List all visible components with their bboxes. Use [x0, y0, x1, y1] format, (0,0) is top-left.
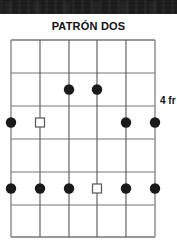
- note-marker-filled: [150, 117, 160, 127]
- note-marker-filled: [35, 183, 45, 193]
- note-marker-filled: [64, 84, 74, 94]
- note-marker-filled: [150, 183, 160, 193]
- fret-position-label: 4 fr: [160, 95, 176, 106]
- note-marker-filled: [121, 183, 131, 193]
- fretboard-diagram: [0, 36, 177, 246]
- fretboard-svg: [0, 36, 177, 246]
- note-marker-filled: [121, 117, 131, 127]
- note-marker-filled: [64, 183, 74, 193]
- fret-lines-group: [11, 40, 155, 237]
- note-marker-root-square: [36, 118, 45, 127]
- banner-ghost-text: ▓▒░ ▓▒░ ▓▒░ ▓▒░ ▓▒░ ▓▒░: [4, 0, 174, 14]
- page-title: PATRÓN DOS: [0, 20, 177, 32]
- note-marker-filled: [92, 84, 102, 94]
- note-marker-filled: [6, 183, 16, 193]
- note-marker-root-square: [93, 184, 102, 193]
- note-marker-filled: [6, 117, 16, 127]
- top-banner: ▓▒░ ▓▒░ ▓▒░ ▓▒░ ▓▒░ ▓▒░: [0, 0, 177, 14]
